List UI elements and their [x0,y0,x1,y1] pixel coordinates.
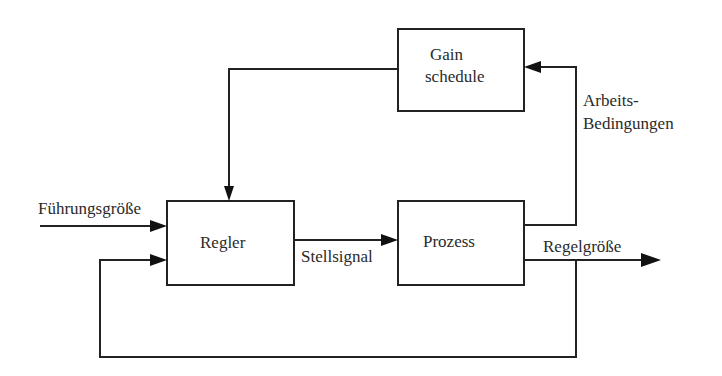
arbeitsbedingungen-arrow: Arbeits- Bedingungen [524,61,674,225]
prozess-block: Prozess [398,201,524,285]
arrowhead-left-icon [524,61,541,73]
gain-schedule-label-line1: Gain [430,45,464,64]
arbeits-label-line1: Arbeits- [583,91,639,110]
fuehrungsgroesse-arrow: Führungsgröße [38,199,167,232]
arrowhead-right-icon [381,234,398,246]
arrowhead-right-icon [150,220,167,232]
regler-block: Regler [167,201,294,285]
gain-schedule-label-line2: schedule [425,67,484,86]
arrowhead-right-icon [641,253,661,267]
gain-to-regler-arrow [224,69,398,201]
gain-schedule-block: Gain schedule [398,29,524,111]
stellsignal-label: Stellsignal [301,247,373,266]
fuehrungsgroesse-label: Führungsgröße [38,199,141,218]
arbeits-label-line2: Bedingungen [583,114,674,133]
prozess-label: Prozess [423,232,475,251]
block-diagram: Gain schedule Regler Prozess Führungsgrö… [0,0,722,376]
stellsignal-arrow: Stellsignal [294,234,398,266]
arrowhead-down-icon [224,186,234,201]
regelgroesse-label: Regelgröße [543,237,621,256]
regler-label: Regler [200,233,246,252]
arrowhead-right-icon [150,254,167,266]
regelgroesse-arrow: Regelgröße [524,237,661,267]
